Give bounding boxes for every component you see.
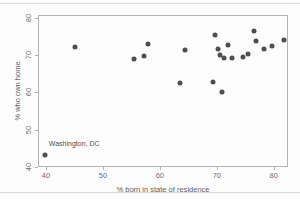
y-axis-tick (35, 92, 38, 93)
x-axis-title: % born in state of residence (117, 186, 210, 194)
scatter-point (183, 48, 188, 53)
y-axis-tick (35, 167, 38, 168)
scatter-point (246, 52, 251, 57)
scatter-point (215, 47, 220, 52)
washington-dc-annotation: Washington, DC (49, 140, 100, 147)
scatter-point (132, 57, 137, 62)
scatter-point (219, 90, 224, 95)
x-axis-tick-label: 40 (42, 172, 50, 180)
y-axis-tick-label: 70 (25, 51, 33, 59)
scatter-point (254, 38, 259, 43)
scatter-point (230, 55, 235, 60)
scatter-point (262, 47, 267, 52)
y-axis-tick-label: 40 (25, 162, 33, 170)
y-axis-tick-label: 80 (25, 14, 33, 22)
y-axis-tick (35, 18, 38, 19)
scatter-point (225, 43, 230, 48)
x-axis-tick-label: 70 (213, 172, 221, 180)
scatter-point (145, 41, 150, 46)
scatter-point (177, 81, 182, 86)
scatter-point (142, 54, 147, 59)
scatter-point (241, 55, 246, 60)
scatter-point (252, 29, 257, 34)
scatter-point (270, 43, 275, 48)
x-axis-tick-label: 50 (99, 172, 107, 180)
y-axis-title: % who own home (14, 61, 22, 120)
scatter-point (73, 44, 78, 49)
y-axis-tick-label: 50 (25, 125, 33, 133)
x-axis-tick-label: 80 (270, 172, 278, 180)
y-axis-tick (35, 130, 38, 131)
scatter-point (210, 80, 215, 85)
y-axis-tick-label: 60 (25, 88, 33, 96)
top-divider-rule (0, 3, 300, 4)
scatter-point (42, 152, 47, 157)
y-axis-tick (35, 55, 38, 56)
x-axis-tick-label: 60 (156, 172, 164, 180)
scatter-point (212, 32, 217, 37)
scatter-point (282, 38, 287, 43)
scatter-point (222, 55, 227, 60)
scatter-plot-figure: % who own home % born in state of reside… (0, 0, 300, 199)
